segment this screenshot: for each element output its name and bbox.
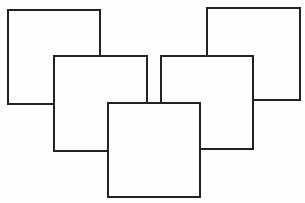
square-bottom-center (107, 102, 201, 198)
overlapping-squares-diagram (0, 0, 305, 203)
